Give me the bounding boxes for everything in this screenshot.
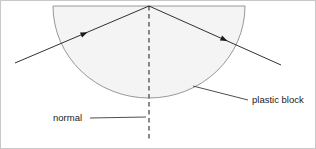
plastic-block-leader-line [193,86,248,100]
plastic-block-shape [53,6,245,98]
normal-label: normal [53,112,82,123]
normal-leader-line [90,117,146,118]
plastic-block-label: plastic block [252,94,304,105]
refraction-diagram-canvas: normal plastic block [1,1,316,149]
diagram-figure: normal plastic block [0,0,316,149]
